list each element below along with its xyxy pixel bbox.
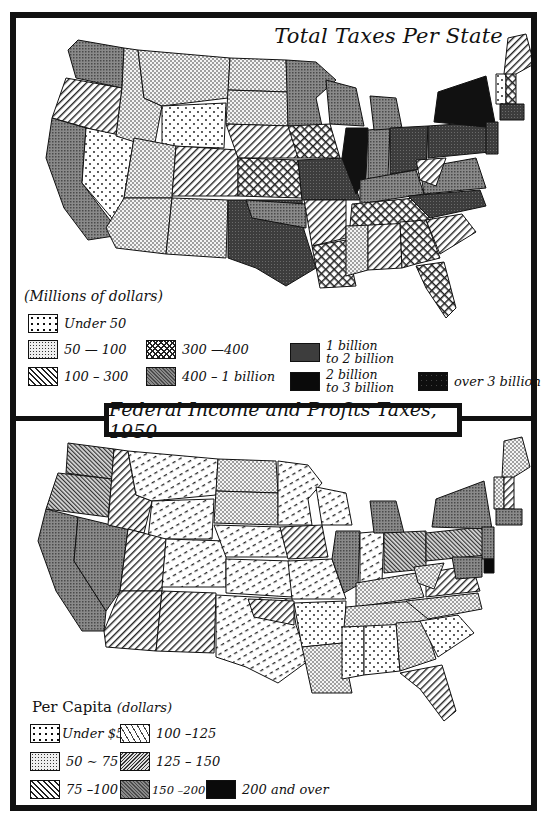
black-speckled-swatch: [418, 372, 448, 391]
top-legend-heading: (Millions of dollars): [24, 288, 163, 304]
bottom-legend-125-150: 125 – 150: [120, 752, 220, 771]
federal-income-panel: Federal Income and Profits Taxes, 1950 P…: [16, 421, 531, 805]
dense-dots-swatch: [28, 340, 58, 359]
top-legend-under-50: Under 50: [28, 314, 126, 333]
gray-hatch-swatch: [146, 367, 176, 386]
federal-income-map: [16, 421, 531, 805]
bottom-legend-75-100: 75 –100: [30, 780, 118, 799]
diagonal-lines-swatch: [28, 367, 58, 386]
dashes-swatch: [120, 724, 150, 743]
sparse-dots-swatch: [28, 314, 58, 333]
bottom-map-title: Federal Income and Profits Taxes, 1950: [104, 403, 462, 437]
fine-diagonal-swatch: [120, 752, 150, 771]
black-swatch: [290, 372, 320, 391]
crosshatch-swatch: [146, 340, 176, 359]
top-legend-400-1billion: 400 – 1 billion: [146, 367, 275, 386]
dark-gray-swatch: [290, 343, 320, 362]
bottom-legend-150-200: 150 –200: [120, 780, 205, 799]
map-frame: Total Taxes Per State (Millions of dolla…: [10, 12, 537, 811]
top-map-title: Total Taxes Per State: [274, 24, 503, 48]
dense-dots-swatch: [30, 752, 60, 771]
bottom-legend-100-125: 100 –125: [120, 724, 216, 743]
bottom-legend-heading: Per Capita (dollars): [32, 698, 172, 716]
diagonal-lines-swatch: [30, 780, 60, 799]
top-legend-2-3-billion: 2 billionto 3 billion: [290, 368, 394, 394]
top-legend-over-3-billion: over 3 billion: [418, 372, 541, 391]
top-legend-1-2-billion: 1 billionto 2 billion: [290, 339, 394, 365]
black-swatch: [206, 780, 236, 799]
bottom-legend-200-over: 200 and over: [206, 780, 329, 799]
bottom-legend-50-75: 50 ∼ 75: [30, 752, 118, 771]
top-legend-100-300: 100 – 300: [28, 367, 128, 386]
top-legend-300-400: 300 —400: [146, 340, 249, 359]
gray-hatch-swatch: [120, 780, 150, 799]
total-taxes-panel: Total Taxes Per State (Millions of dolla…: [16, 18, 531, 416]
bottom-legend-under-50: Under $50: [30, 724, 133, 743]
top-legend-50-100: 50 — 100: [28, 340, 127, 359]
sparse-dots-swatch: [30, 724, 60, 743]
